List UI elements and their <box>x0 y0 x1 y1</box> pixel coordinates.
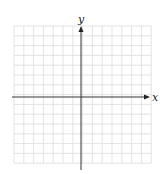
grid-lines <box>14 26 151 163</box>
coordinate-plane: x y <box>0 0 160 174</box>
x-axis-label: x <box>152 91 159 104</box>
x-axis-arrow-icon <box>144 95 150 100</box>
y-axis-label: y <box>77 13 85 26</box>
